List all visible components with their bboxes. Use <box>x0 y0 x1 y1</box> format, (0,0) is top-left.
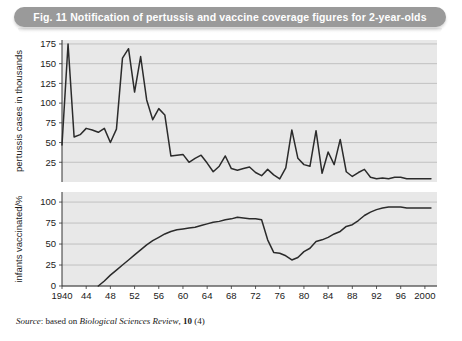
x-tick-label: 76 <box>274 290 285 301</box>
y-tick-label: 150 <box>40 58 56 69</box>
y-tick-label: 125 <box>40 78 56 89</box>
x-tick-label: 52 <box>129 290 140 301</box>
source-volume: 10 <box>183 316 192 326</box>
x-tick-label: 64 <box>202 290 213 301</box>
y-axis-title: infants vaccinated/% <box>13 195 24 283</box>
x-tick-label: 88 <box>347 290 358 301</box>
x-tick-label: 72 <box>250 290 261 301</box>
figure-title-banner: Fig. 11 Notification of pertussis and va… <box>14 7 446 27</box>
x-tick-label: 48 <box>105 290 116 301</box>
source-mid: : based on <box>41 316 80 326</box>
y-axis-title: pertussis cases in thousands <box>13 50 24 172</box>
source-journal: Biological Sciences Review <box>79 316 178 326</box>
pertussis-vaccination-chart: 255075100125150175pertussis cases in tho… <box>0 34 462 304</box>
y-tick-label: 25 <box>45 157 56 168</box>
y-tick-label: 50 <box>45 137 56 148</box>
source-note: Source: based on Biological Sciences Rev… <box>16 316 205 326</box>
x-tick-label: 80 <box>299 290 310 301</box>
y-tick-label: 100 <box>40 196 56 207</box>
panel-background <box>62 192 437 286</box>
x-tick-label: 92 <box>371 290 382 301</box>
x-tick-label: 68 <box>226 290 237 301</box>
source-issue: (4) <box>192 316 205 326</box>
figure-title: Fig. 11 Notification of pertussis and va… <box>33 12 426 23</box>
chart-plot-area: 255075100125150175pertussis cases in tho… <box>0 34 462 304</box>
y-tick-label: 100 <box>40 97 56 108</box>
x-tick-label: 96 <box>395 290 406 301</box>
y-tick-label: 25 <box>45 259 56 270</box>
y-tick-label: 75 <box>45 217 56 228</box>
x-tick-label: 84 <box>323 290 334 301</box>
x-tick-label: 44 <box>81 290 92 301</box>
y-tick-label: 175 <box>40 38 56 49</box>
x-tick-label: 60 <box>178 290 189 301</box>
x-tick-label: 2000 <box>414 290 435 301</box>
x-tick-label: 56 <box>153 290 164 301</box>
figure-container: Fig. 11 Notification of pertussis and va… <box>0 0 462 341</box>
y-tick-label: 75 <box>45 117 56 128</box>
y-tick-label: 50 <box>45 238 56 249</box>
banner-shadow <box>18 28 442 33</box>
source-label: Source <box>16 316 41 326</box>
x-axis-title: year <box>240 303 258 304</box>
x-tick-label: 1940 <box>51 290 72 301</box>
